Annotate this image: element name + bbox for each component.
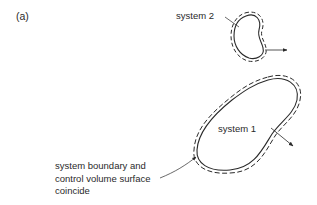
system-1-boundary — [197, 79, 297, 171]
system-2-boundary — [234, 15, 263, 59]
annotation-leader-arrow — [160, 157, 196, 178]
system-1-control-volume — [194, 75, 301, 173]
system-2-control-volume — [231, 12, 266, 61]
system-1-shape — [194, 75, 301, 173]
diagram-canvas — [0, 0, 317, 205]
system-2-shape — [231, 12, 266, 61]
